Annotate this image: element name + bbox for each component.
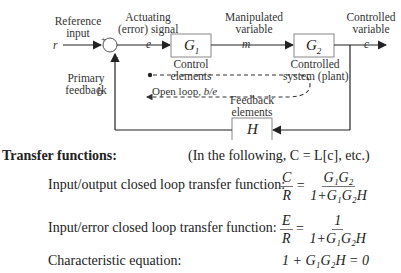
ie-tf-equation: ER = 11+G₁G₂H	[280, 212, 368, 247]
controlled-system-label: Controlledsystem (plant)	[283, 58, 347, 82]
signal-e: e	[146, 38, 151, 50]
controlled-variable-label: Controlledvariable	[340, 11, 401, 35]
transfer-note: (In the following, C = L[c], etc.)	[188, 148, 370, 164]
open-loop-label: Open loop, b/e	[152, 85, 217, 97]
signal-c: c	[364, 38, 369, 50]
plus-sign: +	[101, 33, 106, 45]
block-h: H	[247, 121, 258, 138]
signal-r: r	[53, 39, 57, 51]
minus-sign: -	[115, 51, 118, 63]
signal-m: m	[242, 38, 250, 50]
control-elements-label: Controlelements	[166, 58, 216, 82]
ie-tf-label: Input/error closed loop transfer functio…	[48, 220, 277, 236]
io-tf-equation: CR = G₁G₂1+G₁G₂H	[280, 169, 369, 204]
block-g2: G2	[306, 37, 321, 56]
reference-input-label: Referenceinput	[52, 15, 104, 39]
block-g1: G1	[184, 37, 199, 56]
char-eq-label: Characteristic equation:	[48, 253, 181, 269]
char-eq: 1 + G₁G₂H = 0	[282, 253, 369, 269]
io-tf-label: Input/output closed loop transfer functi…	[48, 177, 285, 193]
signal-b: b	[97, 86, 103, 98]
actuating-signal-label: Actuating(error) signal	[118, 11, 178, 35]
transfer-functions-heading: Transfer functions:	[2, 148, 117, 164]
manipulated-variable-label: Manipulatedvariable	[219, 11, 289, 35]
feedback-elements-label: Feedbackelements	[228, 94, 276, 118]
